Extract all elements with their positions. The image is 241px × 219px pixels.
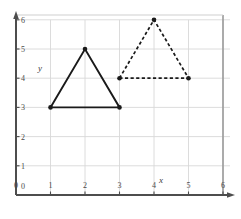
vertex-point bbox=[186, 76, 191, 81]
vertex-point bbox=[152, 18, 157, 23]
vertex-point bbox=[117, 105, 122, 110]
x-axis-arrowhead bbox=[227, 192, 235, 198]
x-tick-label: 4 bbox=[152, 181, 156, 190]
x-tick-label: 0 bbox=[14, 181, 18, 190]
y-tick-label: 2 bbox=[21, 133, 25, 142]
x-tick-label: 3 bbox=[118, 181, 122, 190]
x-tick-label: 5 bbox=[187, 181, 191, 190]
y-tick-label: 6 bbox=[21, 16, 25, 25]
y-tick-label: 1 bbox=[21, 162, 25, 171]
y-tick-label: 3 bbox=[21, 103, 25, 112]
graph-screenshot: 01234560123456 y x bbox=[0, 0, 241, 219]
x-tick-label: 6 bbox=[221, 181, 225, 190]
vertex-point bbox=[48, 105, 53, 110]
x-tick-label: 1 bbox=[49, 181, 53, 190]
coordinate-plane: 01234560123456 y x bbox=[0, 0, 241, 219]
y-axis-label: y bbox=[37, 63, 42, 73]
vertex-point bbox=[117, 76, 122, 81]
y-tick-label: 4 bbox=[21, 74, 25, 83]
y-tick-label: 0 bbox=[21, 182, 25, 191]
x-tick-label: 2 bbox=[83, 181, 87, 190]
x-axis-label: x bbox=[158, 175, 163, 185]
vertex-point bbox=[83, 47, 88, 52]
y-tick-label: 5 bbox=[21, 45, 25, 54]
